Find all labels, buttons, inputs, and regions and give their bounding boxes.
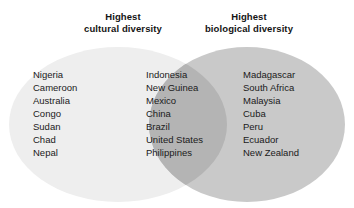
country-item: Mexico — [146, 94, 203, 107]
country-item: Sudan — [33, 120, 77, 133]
heading-cultural-diversity: Highest cultural diversity — [57, 11, 189, 35]
country-list-biological-only: Madagascar South Africa Malaysia Cuba Pe… — [243, 68, 299, 159]
country-item: South Africa — [243, 81, 299, 94]
country-item: Cameroon — [33, 81, 77, 94]
country-item: Brazil — [146, 120, 203, 133]
country-item: Congo — [33, 107, 77, 120]
country-item: Nigeria — [33, 68, 77, 81]
heading-cultural-diversity-line2: cultural diversity — [57, 23, 189, 35]
venn-diagram: Highest cultural diversity Highest biolo… — [0, 0, 354, 208]
heading-biological-diversity: Highest biological diversity — [176, 11, 322, 35]
country-item: Philippines — [146, 146, 203, 159]
country-item: New Guinea — [146, 81, 203, 94]
country-item: Malaysia — [243, 94, 299, 107]
heading-biological-diversity-line2: biological diversity — [176, 23, 322, 35]
country-item: New Zealand — [243, 146, 299, 159]
country-item: Indonesia — [146, 68, 203, 81]
country-item: Nepal — [33, 146, 77, 159]
country-list-cultural-only: Nigeria Cameroon Australia Congo Sudan C… — [33, 68, 77, 159]
country-item: Madagascar — [243, 68, 299, 81]
country-item: United States — [146, 133, 203, 146]
country-item: Ecuador — [243, 133, 299, 146]
country-list-both: Indonesia New Guinea Mexico China Brazil… — [146, 68, 203, 159]
country-item: Chad — [33, 133, 77, 146]
country-item: China — [146, 107, 203, 120]
heading-cultural-diversity-line1: Highest — [57, 11, 189, 23]
heading-biological-diversity-line1: Highest — [176, 11, 322, 23]
country-item: Cuba — [243, 107, 299, 120]
country-item: Australia — [33, 94, 77, 107]
country-item: Peru — [243, 120, 299, 133]
